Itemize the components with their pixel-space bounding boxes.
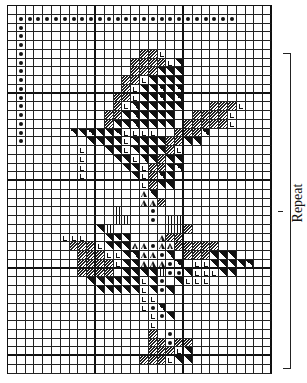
cell-empty: [8, 102, 17, 111]
cell-empty: [105, 85, 114, 94]
cell-black-triangle: [131, 269, 140, 278]
cell-empty: [17, 260, 26, 269]
cell-empty: [131, 32, 140, 41]
cell-empty: [219, 164, 228, 173]
cell-empty: [263, 312, 272, 321]
cell-empty: [78, 356, 87, 365]
cell-empty: [26, 155, 35, 164]
cell-black-triangle: [149, 76, 158, 85]
cell-empty: [263, 277, 272, 286]
cell-empty: [122, 172, 131, 181]
cell-empty: [149, 225, 158, 234]
cell-black-triangle: [158, 120, 167, 129]
cell-dot: [149, 304, 158, 313]
cell-hatched: [149, 67, 158, 76]
cell-empty: [17, 216, 26, 225]
cell-empty: [228, 312, 237, 321]
cell-empty: [96, 155, 105, 164]
cell-empty: [43, 94, 52, 103]
cell-empty: [210, 85, 219, 94]
cell-empty: [8, 120, 17, 129]
cell-black-triangle: [131, 164, 140, 173]
cell-empty: [166, 199, 175, 208]
cell-empty: [17, 321, 26, 330]
cell-empty: [43, 137, 52, 146]
cell-empty: [246, 339, 255, 348]
cell-empty: [228, 172, 237, 181]
cell-empty: [105, 24, 114, 33]
cell-empty: [34, 120, 43, 129]
cell-empty: [26, 207, 35, 216]
cell-empty: [219, 339, 228, 348]
cell-empty: [263, 286, 272, 295]
cell-hatched: [149, 339, 158, 348]
cell-black-triangle: [96, 225, 105, 234]
cell-black-triangle: [166, 155, 175, 164]
cell-empty: [78, 181, 87, 190]
cell-empty: [193, 225, 202, 234]
cell-empty: [61, 269, 70, 278]
cell-empty: [219, 225, 228, 234]
cell-empty: [61, 137, 70, 146]
cell-empty: [52, 295, 61, 304]
cell-empty: [237, 339, 246, 348]
cell-empty: [8, 199, 17, 208]
cell-empty: [237, 120, 246, 129]
cell-empty: [87, 111, 96, 120]
cell-empty: [237, 365, 246, 374]
cell-empty: [61, 76, 70, 85]
cell-black-triangle: [166, 85, 175, 94]
cell-l-mark: [149, 295, 158, 304]
cell-empty: [43, 260, 52, 269]
cell-empty: [78, 32, 87, 41]
cell-empty: [34, 181, 43, 190]
cell-empty: [26, 164, 35, 173]
cell-empty: [140, 347, 149, 356]
cell-dot: [149, 15, 158, 24]
cell-l-mark: [166, 59, 175, 68]
cell-empty: [254, 181, 263, 190]
cell-empty: [114, 164, 123, 173]
cell-black-triangle: [175, 59, 184, 68]
cell-dot: [166, 339, 175, 348]
cell-empty: [87, 59, 96, 68]
cell-empty: [254, 199, 263, 208]
cell-empty: [8, 242, 17, 251]
cell-black-triangle: [131, 111, 140, 120]
cell-hatched: [149, 181, 158, 190]
cell-empty: [87, 207, 96, 216]
cell-hatched: [210, 120, 219, 129]
cell-black-triangle: [166, 94, 175, 103]
cell-empty: [202, 312, 211, 321]
cell-empty: [175, 365, 184, 374]
cell-empty: [87, 6, 96, 15]
cell-empty: [52, 94, 61, 103]
cell-empty: [43, 356, 52, 365]
cell-empty: [8, 85, 17, 94]
cell-empty: [96, 295, 105, 304]
cell-empty: [61, 6, 70, 15]
cell-dot: [131, 15, 140, 24]
cell-black-triangle: [87, 137, 96, 146]
cell-dot: [17, 94, 26, 103]
cell-empty: [237, 111, 246, 120]
cell-empty: [105, 190, 114, 199]
cell-empty: [78, 76, 87, 85]
cell-empty: [210, 59, 219, 68]
cell-empty: [228, 277, 237, 286]
cell-empty: [210, 190, 219, 199]
cell-empty: [158, 207, 167, 216]
cell-empty: [70, 269, 79, 278]
cell-empty: [87, 312, 96, 321]
cell-empty: [17, 347, 26, 356]
cell-empty: [61, 155, 70, 164]
cell-empty: [61, 286, 70, 295]
cell-empty: [26, 24, 35, 33]
cell-l-mark: [202, 269, 211, 278]
cell-empty: [26, 365, 35, 374]
cell-empty: [17, 251, 26, 260]
cell-empty: [193, 356, 202, 365]
cell-empty: [210, 6, 219, 15]
cell-empty: [246, 304, 255, 313]
cell-empty: [246, 164, 255, 173]
